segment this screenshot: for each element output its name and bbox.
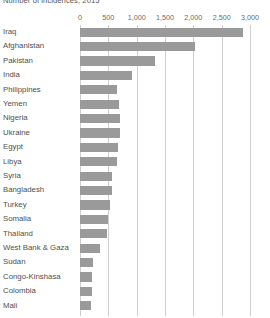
- bar-india: [80, 71, 132, 80]
- category-label-mali: Mali: [3, 299, 17, 313]
- category-label-turkey: Turkey: [3, 198, 27, 212]
- bar-row: [80, 270, 250, 284]
- bar-row: [80, 83, 250, 97]
- bar-chart: Number of incidences, 2015 05001,0001,50…: [0, 0, 270, 318]
- gridline-3000: [250, 25, 251, 316]
- category-label-yemen: Yemen: [3, 97, 27, 111]
- y-axis-category-labels: IraqAfghanistanPakistanIndiaPhilippinesY…: [0, 25, 78, 316]
- category-label-nigeria: Nigeria: [3, 111, 28, 125]
- bar-row: [80, 126, 250, 140]
- category-label-thailand: Thailand: [3, 227, 33, 241]
- bar-ukraine: [80, 128, 120, 137]
- bar-row: [80, 227, 250, 241]
- x-axis-tick-labels: 05001,0001,5002,0002,5003,000: [0, 13, 270, 24]
- bar-libya: [80, 157, 117, 166]
- bar-row: [80, 39, 250, 53]
- bar-philippines: [80, 85, 117, 94]
- bar-congo-kinshasa: [80, 272, 92, 281]
- x-tick-label-2000: 2,000: [184, 13, 202, 22]
- x-tick-label-1000: 1,000: [128, 13, 146, 22]
- category-label-pakistan: Pakistan: [3, 54, 33, 68]
- bar-row: [80, 68, 250, 82]
- bar-pakistan: [80, 56, 155, 65]
- bar-bangladesh: [80, 186, 112, 195]
- bar-thailand: [80, 229, 107, 238]
- bar-row: [80, 284, 250, 298]
- bar-syria: [80, 172, 112, 181]
- category-label-bangladesh: Bangladesh: [3, 183, 44, 197]
- category-label-ukraine: Ukraine: [3, 126, 30, 140]
- category-label-iraq: Iraq: [3, 25, 16, 39]
- bar-row: [80, 198, 250, 212]
- bar-row: [80, 25, 250, 39]
- bar-west-bank-gaza: [80, 244, 100, 253]
- category-label-egypt: Egypt: [3, 140, 23, 154]
- x-tick-label-3000: 3,000: [241, 13, 259, 22]
- category-label-india: India: [3, 68, 20, 82]
- category-label-philippines: Philippines: [3, 83, 41, 97]
- bar-row: [80, 97, 250, 111]
- category-label-somalia: Somalia: [3, 212, 31, 226]
- chart-subtitle: Number of incidences, 2015: [3, 0, 100, 5]
- x-tick-label-2500: 2,500: [213, 13, 231, 22]
- category-label-congo-kinshasa: Congo-Kinshasa: [3, 270, 61, 284]
- bar-rows: [80, 25, 250, 316]
- category-label-west-bank-gaza: West Bank & Gaza: [3, 241, 69, 255]
- bar-row: [80, 183, 250, 197]
- bar-row: [80, 241, 250, 255]
- category-label-colombia: Colombia: [3, 284, 36, 298]
- bar-row: [80, 111, 250, 125]
- bar-row: [80, 212, 250, 226]
- bar-row: [80, 140, 250, 154]
- category-label-libya: Libya: [3, 155, 22, 169]
- bar-row: [80, 169, 250, 183]
- bar-colombia: [80, 287, 92, 296]
- bar-yemen: [80, 100, 119, 109]
- x-tick-label-0: 0: [78, 13, 82, 22]
- plot-area: [80, 25, 250, 316]
- bar-afghanistan: [80, 42, 195, 51]
- x-tick-label-500: 500: [102, 13, 114, 22]
- bar-sudan: [80, 258, 93, 267]
- category-label-afghanistan: Afghanistan: [3, 39, 44, 53]
- bar-row: [80, 299, 250, 313]
- x-tick-label-1500: 1,500: [156, 13, 174, 22]
- bar-mali: [80, 301, 91, 310]
- bar-row: [80, 155, 250, 169]
- bar-row: [80, 255, 250, 269]
- bar-nigeria: [80, 114, 120, 123]
- bar-iraq: [80, 28, 243, 37]
- category-label-syria: Syria: [3, 169, 21, 183]
- category-label-sudan: Sudan: [3, 255, 26, 269]
- bar-row: [80, 54, 250, 68]
- bar-somalia: [80, 215, 108, 224]
- bar-turkey: [80, 200, 110, 209]
- bar-egypt: [80, 143, 118, 152]
